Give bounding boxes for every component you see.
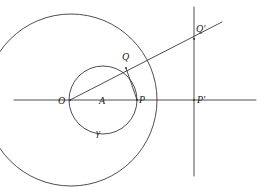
- geometry-figure: O A P Q P' Q' γ: [0, 0, 269, 187]
- point-qprime-dot: [193, 38, 195, 40]
- point-pprime-dot: [193, 99, 195, 101]
- label-point-o: O: [58, 96, 65, 106]
- point-p-dot: [136, 99, 138, 101]
- point-o-dot: [69, 99, 71, 101]
- point-q-dot: [125, 67, 127, 69]
- label-point-q-image: Q': [196, 24, 205, 34]
- label-point-p: P: [139, 95, 145, 105]
- label-point-q: Q: [122, 52, 129, 62]
- label-point-p-image: P': [197, 95, 205, 105]
- chord-q-p: [126, 68, 137, 100]
- label-circle-gamma: γ: [96, 128, 100, 138]
- geometry-canvas: [0, 0, 269, 187]
- label-point-a: A: [99, 96, 105, 106]
